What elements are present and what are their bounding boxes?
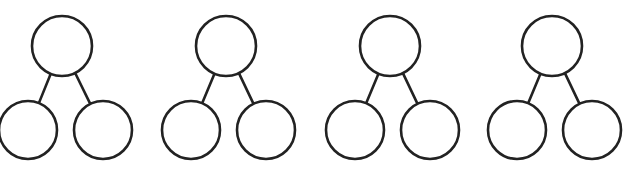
connector-line-right xyxy=(239,73,254,104)
whole-circle xyxy=(196,16,256,76)
number-bond-3 xyxy=(326,16,459,159)
connector-line-left xyxy=(202,74,214,104)
part-circle-right xyxy=(563,101,621,159)
whole-circle xyxy=(522,16,582,76)
part-circle-left xyxy=(0,101,57,159)
connector-line-left xyxy=(366,74,378,104)
connector-line-left xyxy=(39,74,51,103)
connector-line-right xyxy=(565,73,580,104)
number-bond-diagram xyxy=(0,0,625,174)
number-bond-1 xyxy=(0,16,132,159)
connector-line-left xyxy=(528,74,540,104)
whole-circle xyxy=(360,16,420,76)
connector-line-right xyxy=(75,73,90,104)
number-bond-4 xyxy=(488,16,621,159)
number-bond-2 xyxy=(162,16,295,159)
whole-circle xyxy=(32,16,92,76)
part-circle-left xyxy=(488,101,546,159)
part-circle-left xyxy=(326,101,384,159)
part-circle-right xyxy=(237,101,295,159)
part-circle-left xyxy=(162,101,220,159)
part-circle-right xyxy=(401,101,459,159)
part-circle-right xyxy=(74,101,132,159)
connector-line-right xyxy=(403,73,418,104)
